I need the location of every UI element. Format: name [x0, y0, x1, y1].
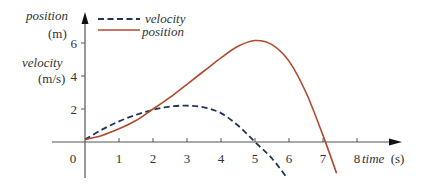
x-tick-label: 6 — [286, 151, 293, 166]
chart: 012345678 246 position (m) velocity (m/s… — [0, 0, 425, 189]
y-ticks: 246 — [71, 36, 86, 117]
x-axis-arrow-icon — [389, 139, 402, 146]
y-label-position: position — [25, 8, 68, 23]
legend: velocity position — [98, 11, 186, 39]
y-tick-label: 6 — [71, 36, 78, 51]
x-tick-label: 2 — [150, 151, 157, 166]
y-label-velocity: velocity — [22, 55, 63, 70]
axes — [52, 12, 402, 178]
y-label-velocity-unit: (m/s) — [38, 71, 65, 86]
y-axis-arrow-icon — [82, 12, 89, 24]
position-line — [85, 40, 337, 173]
legend-position-label: position — [141, 24, 184, 39]
x-tick-label: 4 — [218, 151, 225, 166]
y-tick-label: 4 — [71, 69, 78, 84]
x-label-time: time — [362, 151, 385, 166]
x-label-unit: (s) — [391, 151, 405, 166]
x-tick-label: 1 — [116, 151, 123, 166]
x-tick-label: 0 — [70, 151, 77, 166]
x-tick-label: 3 — [184, 151, 191, 166]
y-label-position-unit: (m) — [48, 26, 67, 41]
y-tick-label: 2 — [71, 102, 78, 117]
x-tick-label: 7 — [320, 151, 327, 166]
x-tick-label: 8 — [354, 151, 361, 166]
x-tick-label: 5 — [252, 151, 259, 166]
x-axis-label: time (s) — [362, 151, 404, 166]
